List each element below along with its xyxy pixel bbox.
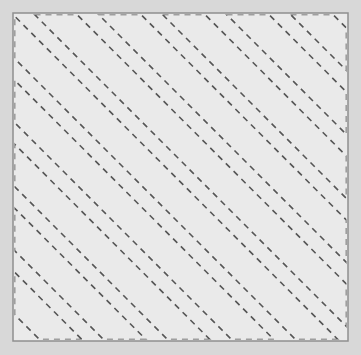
panel-fill	[13, 13, 348, 341]
hatch-pattern-canvas	[0, 0, 361, 355]
figure-root	[0, 0, 361, 355]
